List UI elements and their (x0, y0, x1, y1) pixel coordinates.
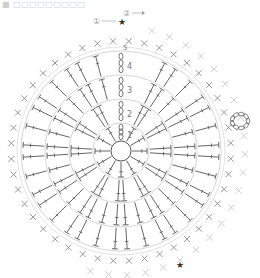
chain-stitch (119, 90, 123, 96)
r4-v-a (33, 107, 52, 116)
r3-t (50, 132, 70, 137)
outer-ring (17, 47, 225, 255)
r4-t-tick (143, 238, 146, 239)
r3-t (50, 165, 70, 170)
r3-t-tick (137, 215, 140, 216)
r4-t-tick (33, 126, 34, 129)
r2-v-a (147, 164, 166, 173)
end-star-icon: ★ (176, 260, 184, 270)
r4-v-a (77, 220, 86, 239)
r2-v-b (76, 164, 95, 173)
r4-t (52, 205, 67, 220)
r3-v-b (88, 85, 97, 104)
r4-t (52, 82, 67, 97)
r4-t (175, 82, 190, 97)
r2-v-b (71, 148, 92, 149)
r4-v-b (67, 215, 79, 232)
r2-v-a (76, 129, 95, 138)
chain-stitch (119, 60, 123, 66)
r3-t (135, 202, 140, 222)
r4-t-tick (33, 173, 34, 176)
r1-stitch (108, 161, 116, 174)
r4-v-b (185, 194, 202, 206)
r4-v-b (23, 145, 44, 146)
r3-v-a (168, 175, 187, 184)
marker-2-arrowhead (142, 11, 145, 15)
r3-t (158, 99, 173, 114)
r1-stitch (131, 157, 144, 165)
round-ring-5 (21, 51, 221, 251)
r4-v-a (198, 145, 219, 146)
r3-t-tick (185, 132, 186, 135)
r4-v-b (77, 63, 86, 82)
marker-label-1: ① (93, 17, 100, 26)
r3-t-tick (56, 132, 57, 135)
round-number-4: 4 (127, 62, 132, 71)
r3-t (102, 80, 107, 100)
marker-label-2: ② (123, 9, 130, 18)
r4-v-b (198, 156, 219, 157)
r3-v-b (47, 146, 68, 147)
r4-v-a (67, 69, 79, 86)
chain-stitch (119, 101, 123, 107)
r2-v-b (147, 129, 166, 138)
r3-v-a (124, 204, 125, 225)
r2-v-a (123, 180, 124, 201)
r4-v-b (190, 107, 209, 116)
r4-v-b (155, 220, 164, 239)
r4-v-a (164, 215, 176, 232)
round-number-5: 5 (123, 44, 127, 52)
r3-t (69, 99, 84, 114)
r3-t-tick (56, 167, 57, 170)
r4-t (96, 225, 101, 245)
chain-stitch (119, 114, 123, 120)
r3-t-tick (102, 86, 105, 87)
r4-t (26, 126, 46, 131)
r4-v-a (126, 228, 127, 249)
r3-v-a (88, 198, 97, 217)
r4-t-tick (96, 63, 99, 64)
r1-stitch (108, 128, 116, 141)
r3-v-b (116, 204, 117, 225)
r2-v-a (134, 106, 143, 125)
round-ring-1 (111, 141, 131, 161)
round-number-3: 3 (127, 86, 132, 95)
r4-t-tick (96, 238, 99, 239)
r4-t (26, 171, 46, 176)
r2-v-b (134, 177, 143, 196)
r3-v-a (145, 85, 154, 104)
chain-stitch (119, 84, 123, 90)
r1-stitch (98, 157, 111, 165)
r4-t-tick (208, 126, 209, 129)
r2-v-b (99, 106, 108, 125)
r2-v-b (118, 180, 119, 201)
r4-t (195, 171, 215, 176)
chain-loop (230, 115, 235, 122)
r4-v-a (23, 156, 44, 157)
crochet-diagram: 12345★①②★ (0, 0, 260, 278)
chain-stitch (119, 66, 123, 72)
r1-stitch (131, 138, 144, 146)
r4-t-tick (208, 173, 209, 176)
r2-v-a (71, 153, 92, 154)
r1-stitch (98, 138, 111, 146)
r2-v-a (99, 177, 108, 196)
chain-stitch (119, 124, 123, 130)
r2-v-a (150, 148, 171, 149)
r3-v-b (168, 118, 187, 127)
r4-v-a (190, 185, 209, 194)
r4-t (141, 225, 146, 245)
start-star-icon: ★ (118, 17, 126, 27)
r2-v-b (150, 153, 171, 154)
r3-v-a (47, 154, 68, 155)
r3-v-b (174, 154, 195, 155)
r4-v-b (164, 69, 176, 86)
r3-t-tick (102, 215, 105, 216)
r3-t (158, 188, 173, 203)
round-number-2: 2 (127, 110, 132, 119)
r3-t (69, 188, 84, 203)
round-ring-4 (45, 75, 197, 227)
r3-t (172, 132, 192, 137)
r4-t (175, 205, 190, 220)
r3-t (172, 165, 192, 170)
